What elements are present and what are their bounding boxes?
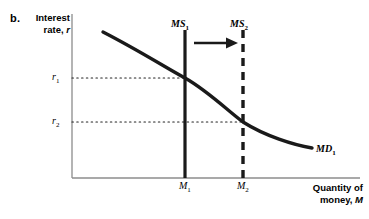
- curve-label-md1-base: MD: [316, 143, 332, 154]
- curve-label-md1-sub: 1: [332, 149, 336, 157]
- money-demand-curve-md1: [103, 32, 312, 148]
- y-tick-r1-sub: 1: [56, 77, 60, 85]
- curve-label-ms1: MS1: [171, 18, 189, 32]
- x-tick-label-m2: M2: [237, 180, 249, 194]
- curve-label-ms2-base: MS: [230, 18, 244, 29]
- y-tick-label-r2: r2: [52, 115, 59, 129]
- x-tick-m2-sub: 2: [245, 186, 249, 194]
- y-tick-r2-sub: 2: [56, 121, 60, 129]
- curve-label-ms1-base: MS: [171, 18, 185, 29]
- x-tick-label-m1: M1: [179, 180, 191, 194]
- x-tick-m1-sub: 1: [187, 186, 191, 194]
- curve-label-ms2: MS2: [230, 18, 248, 32]
- curve-label-ms1-sub: 1: [185, 24, 189, 32]
- y-tick-label-r1: r1: [52, 71, 59, 85]
- curve-label-md1: MD1: [316, 143, 336, 157]
- shift-arrow-head-icon: [226, 38, 238, 49]
- curve-label-ms2-sub: 2: [244, 24, 248, 32]
- money-market-diagram: b. Interest rate, r Quantity of money, M…: [0, 0, 369, 219]
